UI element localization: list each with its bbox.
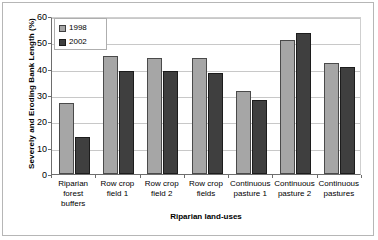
- bar: [119, 71, 134, 174]
- bar: [147, 58, 162, 174]
- x-tick-label-line: pasture 1: [228, 189, 272, 199]
- bar: [280, 40, 295, 174]
- x-tick-label: Continuouspasture 1: [228, 179, 272, 199]
- bar: [59, 103, 74, 174]
- bar: [252, 100, 267, 174]
- x-tick-label: Row cropfield 2: [140, 179, 184, 199]
- x-tick-mark: [272, 175, 273, 178]
- x-tick-label-line: field 2: [140, 189, 184, 199]
- x-tick-label: Continuouspastures: [317, 179, 361, 199]
- x-tick-mark: [317, 175, 318, 178]
- bar: [324, 63, 339, 174]
- bar: [192, 58, 207, 174]
- legend-item: 1998: [59, 22, 106, 34]
- y-axis-title: Severely and Eroding Bank Length (%): [27, 9, 36, 179]
- x-tick-mark: [51, 175, 52, 178]
- x-tick-label: Row cropfields: [184, 179, 228, 199]
- legend-swatch-icon: [59, 25, 66, 32]
- bar: [296, 33, 311, 174]
- x-tick-label-line: field 1: [95, 189, 139, 199]
- legend-label: 2002: [69, 38, 87, 46]
- x-tick-label-line: forest: [51, 189, 95, 199]
- x-tick-mark: [95, 175, 96, 178]
- x-tick-label: Row cropfield 1: [95, 179, 139, 199]
- x-tick-mark: [361, 175, 362, 178]
- chart-legend: 19982002: [54, 18, 107, 50]
- x-tick-label-line: Row crop: [184, 179, 228, 189]
- legend-label: 1998: [69, 24, 87, 32]
- x-tick-label-line: Row crop: [95, 179, 139, 189]
- x-tick-label-line: pasture 2: [272, 189, 316, 199]
- legend-item: 2002: [59, 36, 106, 48]
- x-tick-label: Continuouspasture 2: [272, 179, 316, 199]
- bar: [340, 67, 355, 174]
- bar: [103, 56, 118, 175]
- chart-frame: Severely and Eroding Bank Length (%) 010…: [2, 2, 374, 236]
- bar: [163, 71, 178, 174]
- bar: [75, 137, 90, 174]
- x-tick-label-line: Continuous: [272, 179, 316, 189]
- bar: [208, 73, 223, 174]
- x-axis-title: Riparian land-uses: [51, 212, 361, 221]
- x-tick-label-line: Continuous: [317, 179, 361, 189]
- x-tick-mark: [140, 175, 141, 178]
- x-tick-label-line: Riparian: [51, 179, 95, 189]
- legend-swatch-icon: [59, 39, 66, 46]
- x-tick-label-line: fields: [184, 189, 228, 199]
- x-tick-label-line: pastures: [317, 189, 361, 199]
- x-tick-mark: [184, 175, 185, 178]
- x-tick-label-line: Continuous: [228, 179, 272, 189]
- bar: [236, 91, 251, 174]
- x-tick-mark: [228, 175, 229, 178]
- x-tick-label-line: Row crop: [140, 179, 184, 189]
- x-tick-label-line: buffers: [51, 199, 95, 209]
- x-tick-label: Riparianforestbuffers: [51, 179, 95, 209]
